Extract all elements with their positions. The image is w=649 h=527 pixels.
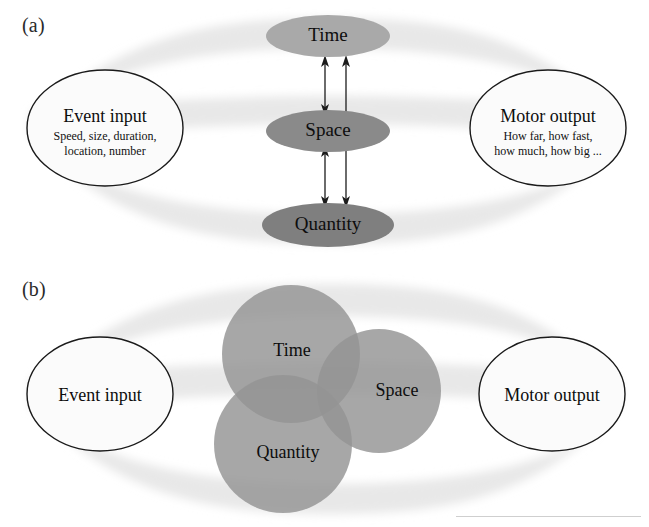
- node-time-a[interactable]: Time: [266, 15, 390, 57]
- footer-rule: [456, 516, 641, 517]
- event-input-title: Event input: [63, 106, 147, 126]
- space-label: Space: [305, 119, 350, 140]
- event-input-subline-2: location, number: [64, 144, 145, 158]
- time-label: Time: [308, 24, 347, 45]
- node-space-a[interactable]: Space: [266, 110, 390, 152]
- panel-a-label: (a): [22, 14, 45, 37]
- motor-output-node-a[interactable]: Motor output How far, how fast, how much…: [470, 70, 626, 186]
- panel-b-label: (b): [22, 278, 46, 301]
- panel-b: (b) Even: [0, 264, 649, 527]
- motor-output-node-b[interactable]: Motor output: [479, 337, 625, 451]
- event-input-title: Event input: [58, 385, 142, 405]
- time-label: Time: [273, 340, 310, 360]
- event-input-subline-1: Speed, size, duration,: [54, 129, 157, 143]
- motor-output-title: Motor output: [504, 385, 600, 405]
- motor-output-title: Motor output: [500, 106, 596, 126]
- panel-b-diagram: Event input Motor output Time Space Quan…: [0, 264, 649, 527]
- quantity-label: Quantity: [257, 442, 320, 462]
- event-input-ellipse: [27, 70, 183, 186]
- event-input-node-a[interactable]: Event input Speed, size, duration, locat…: [27, 70, 183, 186]
- space-label: Space: [376, 380, 419, 400]
- space-quantity-arrow: [321, 145, 329, 208]
- quantity-label: Quantity: [295, 213, 362, 234]
- motor-output-subline-2: how much, how big ...: [494, 144, 601, 158]
- event-input-node-b[interactable]: Event input: [27, 337, 173, 451]
- motor-output-subline-1: How far, how fast,: [503, 129, 592, 143]
- time-space-arrow: [321, 55, 329, 116]
- motor-output-ellipse: [470, 70, 626, 186]
- panel-a: (a) Even: [0, 0, 649, 264]
- node-quantity-a[interactable]: Quantity: [262, 203, 394, 247]
- figure-root: (a) Even: [0, 0, 649, 527]
- panel-a-diagram: Event input Speed, size, duration, locat…: [0, 0, 649, 264]
